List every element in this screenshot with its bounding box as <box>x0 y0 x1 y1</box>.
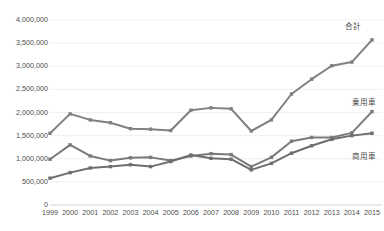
data-point-total <box>290 92 293 95</box>
x-axis-tick-label: 2009 <box>243 208 259 217</box>
data-point-passenger <box>310 136 313 139</box>
y-axis-tick-label: 1,000,000 <box>2 155 48 163</box>
data-point-commercial <box>330 138 333 141</box>
x-axis-tick-label: 2008 <box>223 208 239 217</box>
y-axis: 0500,0001,000,0001,500,0002,000,0002,500… <box>0 0 48 231</box>
data-point-total <box>169 129 172 132</box>
series-label-passenger: 乗用車 <box>352 96 376 107</box>
data-point-total <box>89 118 92 121</box>
data-point-commercial <box>89 166 92 169</box>
data-point-passenger <box>370 110 373 113</box>
data-point-total <box>229 107 232 110</box>
data-point-commercial <box>209 157 212 160</box>
y-axis-tick-label: 3,000,000 <box>2 62 48 70</box>
line-chart: 0500,0001,000,0001,500,0002,000,0002,500… <box>0 0 384 231</box>
data-point-passenger <box>149 156 152 159</box>
x-axis-tick-label: 2012 <box>304 208 320 217</box>
x-axis-tick-label: 2007 <box>203 208 219 217</box>
y-axis-tick-label: 1,500,000 <box>2 132 48 140</box>
data-point-commercial <box>290 152 293 155</box>
x-axis-tick-label: 1999 <box>42 208 58 217</box>
data-point-total <box>149 127 152 130</box>
x-axis-tick-label: 2000 <box>62 208 78 217</box>
data-point-total <box>48 132 51 135</box>
y-axis-tick-label: 2,000,000 <box>2 109 48 117</box>
data-point-total <box>350 60 353 63</box>
x-axis-tick-label: 2011 <box>284 208 299 217</box>
x-axis-tick-label: 2014 <box>344 208 360 217</box>
data-point-commercial <box>169 160 172 163</box>
data-point-passenger <box>229 153 232 156</box>
data-point-commercial <box>129 163 132 166</box>
data-point-total <box>109 121 112 124</box>
data-point-total <box>189 108 192 111</box>
data-point-passenger <box>48 158 51 161</box>
data-point-total <box>270 118 273 121</box>
gridlines <box>50 20 382 205</box>
data-point-total <box>129 127 132 130</box>
data-point-total <box>68 112 71 115</box>
x-axis-tick-label: 2003 <box>123 208 139 217</box>
series-label-commercial: 商用車 <box>352 150 376 161</box>
data-point-passenger <box>270 156 273 159</box>
data-point-total <box>370 38 373 41</box>
data-point-passenger <box>129 156 132 159</box>
series-line-commercial <box>50 133 372 178</box>
data-point-commercial <box>250 168 253 171</box>
y-axis-tick-label: 500,000 <box>2 178 48 186</box>
x-axis-tick-label: 2013 <box>324 208 340 217</box>
data-point-commercial <box>270 162 273 165</box>
y-axis-tick-label: 4,000,000 <box>2 16 48 24</box>
data-point-commercial <box>48 176 51 179</box>
data-point-commercial <box>370 132 373 135</box>
data-point-total <box>250 129 253 132</box>
x-axis-tick-label: 2002 <box>102 208 118 217</box>
x-axis-tick-label: 2005 <box>163 208 179 217</box>
data-point-passenger <box>250 165 253 168</box>
data-point-commercial <box>189 153 192 156</box>
x-axis: 1999200020012002200320042005200620072008… <box>50 208 380 222</box>
x-axis-tick-label: 2015 <box>364 208 380 217</box>
x-axis-tick-label: 2010 <box>263 208 279 217</box>
y-axis-tick-label: 2,500,000 <box>2 85 48 93</box>
x-axis-tick-label: 2004 <box>143 208 159 217</box>
series-line-total <box>50 40 372 133</box>
data-point-commercial <box>109 165 112 168</box>
data-point-commercial <box>310 144 313 147</box>
data-point-commercial <box>149 165 152 168</box>
series-label-total: 合計 <box>345 20 361 31</box>
data-point-passenger <box>290 139 293 142</box>
data-point-passenger <box>68 143 71 146</box>
y-axis-tick-label: 3,500,000 <box>2 39 48 47</box>
x-axis-tick-label: 2006 <box>183 208 199 217</box>
data-point-passenger <box>209 152 212 155</box>
data-point-total <box>209 106 212 109</box>
data-point-commercial <box>350 134 353 137</box>
data-point-total <box>310 78 313 81</box>
data-point-commercial <box>229 158 232 161</box>
data-point-passenger <box>109 159 112 162</box>
chart-plot-area <box>0 0 384 231</box>
data-point-commercial <box>68 171 71 174</box>
data-point-total <box>330 64 333 67</box>
data-point-passenger <box>89 154 92 157</box>
x-axis-tick-label: 2001 <box>82 208 98 217</box>
